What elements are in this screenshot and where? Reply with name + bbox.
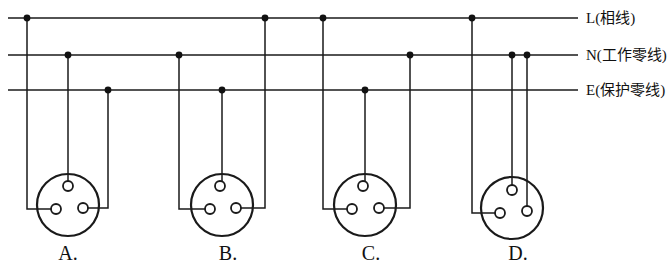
bus-label-n: N(工作零线)	[586, 48, 667, 63]
bus-label-e: E(保护零线)	[586, 83, 665, 98]
junction-dot-n-1	[65, 52, 72, 59]
option-label-a: A.	[48, 243, 88, 263]
outlet-d-hole-top	[507, 185, 517, 195]
outlet-a-hole-bottom-right	[78, 203, 88, 213]
junction-dot-e-2	[105, 87, 112, 94]
outlet-d-hole-bottom-left	[495, 208, 505, 218]
bus-lines-group	[8, 18, 578, 90]
outlet-b-hole-bottom-right	[231, 203, 241, 213]
wiring-schematic-canvas	[0, 0, 672, 271]
wire-b-n-to-bottom-left	[179, 55, 210, 209]
junction-dot-l-9	[469, 15, 476, 22]
junction-dot-l-5	[262, 15, 269, 22]
outlet-a-hole-bottom-left	[51, 204, 61, 214]
drop-wires-group	[27, 18, 527, 213]
wire-a-l-to-bottom-left	[27, 18, 56, 209]
outlet-c-hole-top	[358, 181, 368, 191]
outlet-d-hole-bottom-right	[522, 206, 532, 216]
wire-d-l-to-bottom-left	[472, 18, 500, 213]
junction-dot-n-8	[407, 52, 414, 59]
outlet-c-hole-bottom-right	[374, 203, 384, 213]
outlet-b-hole-bottom-left	[205, 204, 215, 214]
outlet-b-hole-top	[215, 181, 225, 191]
junction-dot-l-0	[24, 15, 31, 22]
outlet-a-hole-top	[63, 181, 73, 191]
outlets-group	[37, 174, 543, 239]
junction-dots-group	[24, 15, 531, 94]
bus-label-l: L(相线)	[586, 11, 635, 26]
junction-dot-e-4	[219, 87, 226, 94]
junction-dot-n-3	[176, 52, 183, 59]
junction-dot-e-7	[362, 87, 369, 94]
junction-dot-n-10	[509, 52, 516, 59]
option-label-c: C.	[351, 243, 391, 263]
junction-dot-n-11	[524, 52, 531, 59]
wire-c-n-to-bottom-right	[379, 55, 410, 208]
outlet-c-hole-bottom-left	[347, 204, 357, 214]
wiring-diagram: L(相线)N(工作零线)E(保护零线) A.B.C.D.	[0, 0, 672, 271]
option-label-b: B.	[208, 243, 248, 263]
option-label-d: D.	[498, 243, 538, 263]
junction-dot-l-6	[320, 15, 327, 22]
